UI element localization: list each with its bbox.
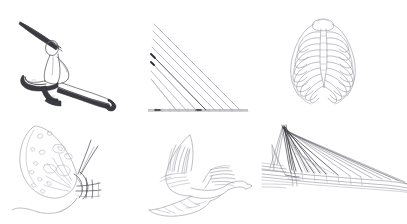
sketch-cable-stayed-bridge: Cable-stayed bridge xyxy=(262,122,407,200)
sketch-line-fan-triangle: Radiating line fan over a baseline xyxy=(148,22,252,116)
sketch-ribcage: Human ribcage xyxy=(280,12,366,110)
sketch-butterfly-wing: Butterfly wing and body xyxy=(14,118,118,218)
sketch-sheet: Lunging human figure xyxy=(0,0,407,224)
sketch-figure-lunge: Lunging human figure xyxy=(8,8,134,112)
sketch-bird-in-flight: Bird in flight xyxy=(148,130,258,218)
